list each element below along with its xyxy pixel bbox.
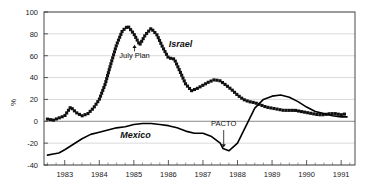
series-dot bbox=[181, 77, 184, 80]
series-dot bbox=[174, 60, 177, 63]
series-dot bbox=[263, 105, 266, 108]
series-dot bbox=[140, 40, 143, 43]
series-dot bbox=[159, 42, 162, 45]
series-dot bbox=[291, 109, 294, 112]
series-dot bbox=[133, 33, 136, 36]
series-dot bbox=[249, 100, 252, 103]
series-dot bbox=[315, 113, 318, 116]
series-dot bbox=[255, 102, 258, 105]
x-tick-label-1991: 1991 bbox=[333, 170, 350, 179]
series-dot bbox=[114, 47, 117, 50]
series-dot bbox=[116, 41, 119, 44]
series-dot bbox=[180, 74, 183, 77]
series-dot bbox=[275, 108, 278, 111]
series-dot bbox=[269, 106, 272, 109]
y-tick-label-0: 0 bbox=[34, 117, 38, 126]
series-dot bbox=[285, 109, 288, 112]
series-dot bbox=[282, 109, 285, 112]
series-dot bbox=[107, 71, 110, 74]
data-series bbox=[46, 26, 347, 156]
chart-figure: -40-20020406080100 198319841985198619871… bbox=[0, 0, 374, 191]
y-tick-label--40: -40 bbox=[27, 161, 38, 170]
series-dot bbox=[158, 39, 161, 42]
series-dot bbox=[105, 77, 108, 80]
series-dot bbox=[303, 111, 306, 114]
series-dot bbox=[113, 50, 116, 53]
series-dots-israel bbox=[46, 26, 346, 122]
x-axis-ticks bbox=[47, 160, 349, 165]
series-dot bbox=[312, 112, 315, 115]
x-tick-label-1988: 1988 bbox=[229, 170, 246, 179]
y-tick-label-40: 40 bbox=[30, 73, 38, 82]
series-dot bbox=[193, 88, 196, 91]
series-dot bbox=[294, 109, 297, 112]
series-dot bbox=[58, 116, 61, 119]
series-dot bbox=[98, 98, 101, 101]
annotation-label-pacto: PACTO bbox=[211, 119, 236, 128]
series-dot bbox=[136, 39, 139, 42]
series-dot bbox=[108, 68, 111, 71]
series-dot bbox=[103, 83, 106, 86]
series-dot bbox=[337, 113, 340, 116]
x-tick-label-1985: 1985 bbox=[126, 170, 143, 179]
series-dot bbox=[61, 115, 64, 118]
series-dot bbox=[204, 82, 207, 85]
series-dot bbox=[272, 107, 275, 110]
series-dot bbox=[100, 92, 103, 95]
series-dot bbox=[212, 78, 215, 81]
series-dot bbox=[157, 36, 160, 39]
gridlines bbox=[44, 12, 355, 165]
x-tick-label-1987: 1987 bbox=[195, 170, 212, 179]
series-dot bbox=[111, 56, 114, 59]
series-dot bbox=[175, 62, 178, 65]
series-dot bbox=[112, 53, 115, 56]
y-tick-label-60: 60 bbox=[30, 52, 38, 61]
series-dot bbox=[78, 113, 81, 116]
series-dot bbox=[334, 112, 337, 115]
x-tick-label-1989: 1989 bbox=[264, 170, 281, 179]
series-dot bbox=[266, 106, 269, 109]
x-tick-label-1990: 1990 bbox=[298, 170, 315, 179]
series-dot bbox=[162, 47, 165, 50]
series-dot bbox=[201, 84, 204, 87]
series-dot bbox=[110, 59, 113, 62]
inflation-line-chart: -40-20020406080100 198319841985198619871… bbox=[0, 0, 374, 191]
series-dot bbox=[169, 57, 172, 60]
series-dot bbox=[102, 86, 105, 89]
series-dot bbox=[46, 118, 49, 121]
series-dot bbox=[190, 89, 193, 92]
series-dot bbox=[84, 113, 87, 116]
x-tick-label-1984: 1984 bbox=[91, 170, 108, 179]
y-axis-title: % bbox=[9, 99, 18, 106]
axes-frame bbox=[44, 12, 355, 165]
series-dot bbox=[340, 113, 343, 116]
y-axis-ticks bbox=[44, 12, 48, 165]
series-dot bbox=[309, 112, 312, 115]
series-dot bbox=[117, 39, 120, 42]
series-dot bbox=[252, 101, 255, 104]
y-tick-label-20: 20 bbox=[30, 95, 38, 104]
x-axis-tick-labels: 198319841985198619871988198919901991 bbox=[56, 170, 349, 179]
x-tick-label-1986: 1986 bbox=[160, 170, 177, 179]
series-dot bbox=[55, 117, 58, 120]
series-dot bbox=[176, 65, 179, 68]
plot-frame bbox=[44, 12, 355, 165]
series-dot bbox=[75, 111, 78, 114]
series-dot bbox=[142, 37, 145, 40]
series-dot bbox=[49, 118, 52, 121]
series-dot bbox=[118, 36, 121, 39]
series-dot bbox=[209, 80, 212, 83]
annotation-arrow-head-july-plan bbox=[132, 45, 136, 48]
series-dot bbox=[343, 113, 346, 116]
series-dot bbox=[101, 89, 104, 92]
series-dot bbox=[297, 109, 300, 112]
series-dot bbox=[199, 85, 202, 88]
series-dot bbox=[306, 111, 309, 114]
y-axis-tick-labels: -40-20020406080100 bbox=[25, 8, 38, 170]
series-dot bbox=[115, 44, 118, 47]
series-dot bbox=[109, 62, 112, 65]
series-dot bbox=[106, 74, 109, 77]
y-axis-title-text: % bbox=[9, 99, 18, 106]
series-dot bbox=[300, 110, 303, 113]
series-dot bbox=[104, 80, 107, 83]
